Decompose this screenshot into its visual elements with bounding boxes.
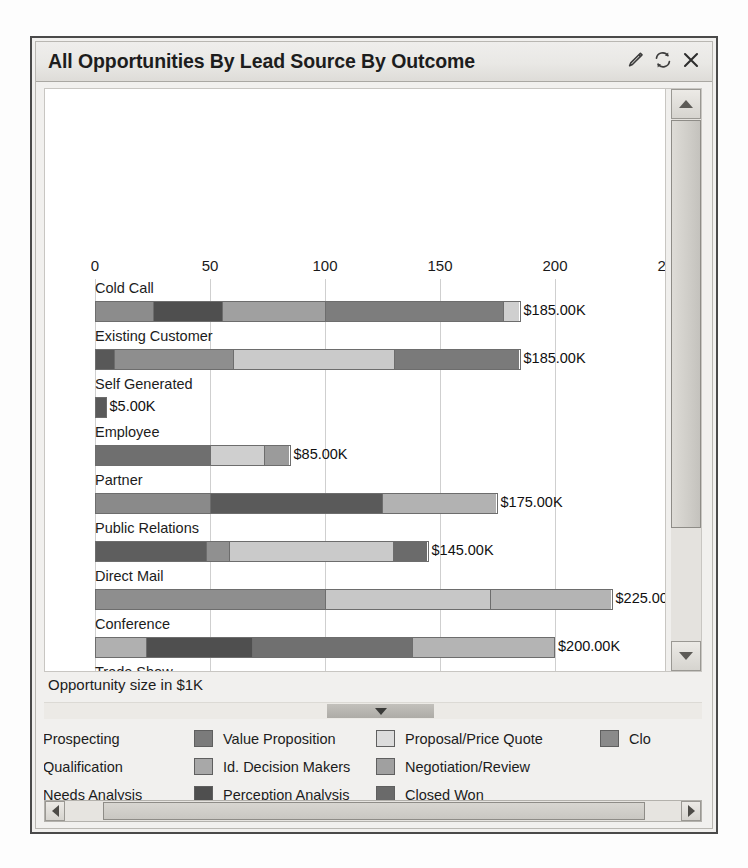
bar-segment[interactable] — [264, 446, 289, 465]
bar-row[interactable]: Cold Call$185.00K — [45, 279, 666, 327]
legend-color-swatch — [376, 758, 395, 775]
bar-segment[interactable] — [96, 446, 210, 465]
screen: All Opportunities By Lead Source By Outc… — [0, 0, 748, 868]
legend-item[interactable]: Proposal/Price Quote — [376, 730, 543, 747]
vscroll-down-button[interactable] — [671, 641, 701, 671]
bar-segment[interactable] — [96, 302, 153, 321]
bar-segment[interactable] — [325, 590, 490, 609]
chart-plot-area: 050100150200250Cold Call$185.00KExisting… — [45, 89, 666, 671]
stacked-bar[interactable] — [95, 301, 521, 322]
bar-segment[interactable] — [382, 494, 496, 513]
panel-inner-frame: All Opportunities By Lead Source By Outc… — [35, 41, 713, 829]
x-axis-tick-label: 200 — [542, 257, 567, 274]
bar-group: Cold Call$185.00KExisting Customer$185.0… — [45, 279, 666, 671]
bar-segment[interactable] — [206, 542, 229, 561]
bar-row[interactable]: Partner$175.00K — [45, 471, 666, 519]
bar-value-label: $85.00K — [294, 446, 348, 462]
legend-item[interactable]: Value Proposition — [194, 730, 336, 747]
close-icon[interactable] — [680, 49, 702, 71]
x-axis-tick-label: 150 — [427, 257, 452, 274]
bar-segment[interactable] — [490, 590, 611, 609]
chart-viewport: 050100150200250Cold Call$185.00KExisting… — [44, 88, 702, 672]
stacked-bar[interactable] — [95, 589, 613, 610]
stacked-bar[interactable] — [95, 445, 291, 466]
x-axis-tick-label: 50 — [202, 257, 219, 274]
bar-row[interactable]: Existing Customer$185.00K — [45, 327, 666, 375]
titlebar-actions — [624, 49, 702, 71]
stacked-bar[interactable] — [95, 349, 521, 370]
bar-segment[interactable] — [96, 398, 106, 417]
legend-color-swatch — [600, 730, 619, 747]
legend-splitter[interactable] — [44, 702, 702, 719]
bar-segment[interactable] — [96, 542, 206, 561]
bar-segment[interactable] — [146, 638, 251, 657]
bar-category-label: Conference — [95, 616, 170, 632]
chart-vertical-scrollbar[interactable] — [665, 89, 701, 671]
legend-label: Prospecting — [44, 731, 120, 747]
bar-segment[interactable] — [233, 350, 393, 369]
bar-segment[interactable] — [96, 494, 210, 513]
x-axis-tick-label: 0 — [91, 257, 99, 274]
legend-item[interactable]: Clo — [600, 730, 651, 747]
bar-category-label: Trade Show — [95, 664, 173, 671]
legend-item[interactable]: Qualification — [44, 758, 123, 775]
bar-category-label: Self Generated — [95, 376, 193, 392]
refresh-icon[interactable] — [652, 49, 674, 71]
edit-pencil-icon[interactable] — [624, 49, 646, 71]
legend-label: Qualification — [44, 759, 123, 775]
hscroll-left-button[interactable] — [45, 801, 65, 821]
bar-segment[interactable] — [96, 350, 114, 369]
bar-segment[interactable] — [325, 302, 504, 321]
legend-item[interactable]: Negotiation/Review — [376, 758, 530, 775]
legend-item[interactable]: Id. Decision Makers — [194, 758, 350, 775]
bar-value-label: $5.00K — [110, 398, 156, 414]
vscroll-up-button[interactable] — [671, 89, 701, 119]
plot-top-blank-area — [45, 89, 666, 257]
chart-panel-window: All Opportunities By Lead Source By Outc… — [30, 36, 718, 834]
hscroll-thumb[interactable] — [103, 802, 645, 820]
bar-category-label: Employee — [95, 424, 159, 440]
bar-category-label: Direct Mail — [95, 568, 163, 584]
bar-segment[interactable] — [96, 638, 146, 657]
stacked-bar[interactable] — [95, 397, 107, 418]
bar-segment[interactable] — [394, 350, 520, 369]
bar-row[interactable]: Self Generated$5.00K — [45, 375, 666, 423]
bar-segment[interactable] — [210, 494, 382, 513]
bar-segment[interactable] — [393, 542, 427, 561]
triangle-right-icon — [688, 805, 695, 817]
bar-row[interactable]: Public Relations$145.00K — [45, 519, 666, 567]
stacked-bar[interactable] — [95, 493, 498, 514]
legend-item[interactable]: Prospecting — [44, 730, 120, 747]
bar-value-label: $145.00K — [432, 542, 494, 558]
bar-segment[interactable] — [210, 446, 265, 465]
hscroll-right-button[interactable] — [681, 801, 701, 821]
legend-label: Clo — [629, 731, 651, 747]
panel-titlebar: All Opportunities By Lead Source By Outc… — [36, 42, 712, 82]
bar-row[interactable]: Trade Show$100.00K — [45, 663, 666, 671]
bar-segment[interactable] — [252, 638, 412, 657]
x-axis-tick-row: 050100150200250 — [45, 257, 666, 279]
panel-horizontal-scrollbar[interactable] — [44, 800, 702, 822]
bar-segment[interactable] — [412, 638, 554, 657]
bar-row[interactable]: Employee$85.00K — [45, 423, 666, 471]
vscroll-thumb[interactable] — [671, 120, 701, 528]
bar-segment[interactable] — [503, 302, 519, 321]
bar-segment[interactable] — [222, 302, 325, 321]
bar-segment[interactable] — [229, 542, 394, 561]
legend-label: Negotiation/Review — [405, 759, 530, 775]
legend-label: Value Proposition — [223, 731, 336, 747]
legend-color-swatch — [194, 730, 213, 747]
splitter-collapse-handle[interactable] — [327, 704, 434, 718]
bar-segment[interactable] — [153, 302, 222, 321]
bar-row[interactable]: Conference$200.00K — [45, 615, 666, 663]
stacked-bar[interactable] — [95, 637, 555, 658]
bar-row[interactable]: Direct Mail$225.00K — [45, 567, 666, 615]
legend-label: Id. Decision Makers — [223, 759, 350, 775]
bar-segment[interactable] — [114, 350, 233, 369]
x-axis-tick-label: 100 — [312, 257, 337, 274]
legend-color-swatch — [376, 730, 395, 747]
bar-category-label: Partner — [95, 472, 143, 488]
stacked-bar[interactable] — [95, 541, 429, 562]
bar-value-label: $175.00K — [501, 494, 563, 510]
bar-segment[interactable] — [96, 590, 325, 609]
